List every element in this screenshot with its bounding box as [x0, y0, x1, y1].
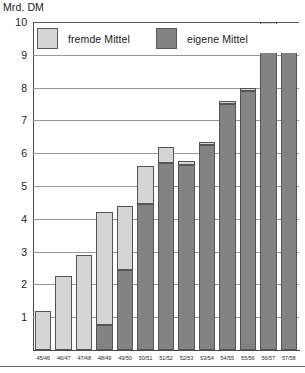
x-axis-tick-label: 48/49: [94, 353, 114, 363]
bar-group: [281, 30, 297, 350]
bar-segment-fremde-mittel: [199, 142, 215, 145]
bar-group: [55, 276, 71, 350]
bar-group: [137, 166, 153, 350]
x-axis-tick-label: 47/48: [74, 353, 94, 363]
x-axis-tick-label: 45/46: [33, 353, 53, 363]
y-axis-tick-label: 7: [0, 115, 27, 126]
bar-group: [260, 22, 276, 350]
bar-chart: Mrd. DM 12345678910 45/4646/4747/4848/49…: [0, 0, 305, 373]
bar-segment-eigene-mittel: [117, 270, 133, 350]
x-axis-tick-label: 50/51: [135, 353, 155, 363]
y-axis-tick-label: 6: [0, 148, 27, 159]
bar-segment-eigene-mittel: [96, 325, 112, 350]
legend-entry-external: fremde Mittel: [37, 28, 130, 49]
bar-segment-eigene-mittel: [199, 145, 215, 350]
bar-group: [178, 161, 194, 350]
bar-group: [76, 255, 92, 350]
bar-segment-fremde-mittel: [117, 206, 133, 270]
bar-segment-fremde-mittel: [240, 88, 256, 91]
y-axis-tick-label: 5: [0, 181, 27, 192]
x-axis-tick-label: 56/57: [258, 353, 278, 363]
y-axis-tick-label: 10: [0, 17, 27, 28]
bar-segment-eigene-mittel: [260, 25, 276, 350]
bar-segment-fremde-mittel: [55, 276, 71, 350]
bar-group: [240, 88, 256, 350]
x-axis-tick-label: 57/58: [279, 353, 299, 363]
y-axis-tick-label: 4: [0, 214, 27, 225]
legend-label: eigene Mittel: [187, 33, 248, 45]
bar-group: [35, 311, 51, 350]
bar-segment-eigene-mittel: [240, 91, 256, 350]
bar-segment-eigene-mittel: [281, 33, 297, 350]
bar-group: [219, 101, 235, 350]
y-axis-tick-label: 2: [0, 279, 27, 290]
x-axis-tick-label: 54/55: [217, 353, 237, 363]
bar-segment-fremde-mittel: [219, 101, 235, 104]
bar-group: [117, 206, 133, 350]
legend: fremde Mitteleigene Mittel: [34, 24, 298, 53]
x-axis-tick-label: 51/52: [156, 353, 176, 363]
bar-segment-fremde-mittel: [96, 212, 112, 325]
bar-group: [158, 147, 174, 350]
bar-segment-eigene-mittel: [137, 204, 153, 350]
y-axis-unit-label: Mrd. DM: [3, 1, 44, 13]
legend-swatch-icon: [156, 28, 177, 49]
x-axis-tick-label: 46/47: [53, 353, 73, 363]
x-axis-ticks: 45/4646/4747/4848/4949/5050/5151/5252/53…: [33, 353, 299, 367]
bar-segment-eigene-mittel: [158, 163, 174, 350]
legend-swatch-icon: [37, 28, 58, 49]
bar-segment-fremde-mittel: [35, 311, 51, 350]
bar-segment-eigene-mittel: [219, 104, 235, 350]
legend-label: fremde Mittel: [68, 33, 130, 45]
bar-segment-fremde-mittel: [137, 166, 153, 204]
bar-segment-eigene-mittel: [178, 165, 194, 350]
bottom-rule: [0, 366, 305, 367]
bar-segment-fremde-mittel: [76, 255, 92, 350]
y-axis-tick-label: 8: [0, 82, 27, 93]
x-axis-tick-label: 49/50: [115, 353, 135, 363]
bar-group: [96, 212, 112, 350]
x-axis-tick-label: 55/56: [238, 353, 258, 363]
bar-segment-fremde-mittel: [158, 147, 174, 163]
y-axis-tick-label: 9: [0, 50, 27, 61]
bar-group: [199, 142, 215, 350]
legend-entry-own: eigene Mittel: [156, 28, 248, 49]
bars-layer: [33, 22, 299, 350]
bar-segment-fremde-mittel: [178, 161, 194, 164]
y-axis-tick-label: 3: [0, 246, 27, 257]
x-axis-tick-label: 53/54: [197, 353, 217, 363]
y-axis-tick-label: 1: [0, 312, 27, 323]
x-axis-tick-label: 52/53: [176, 353, 196, 363]
